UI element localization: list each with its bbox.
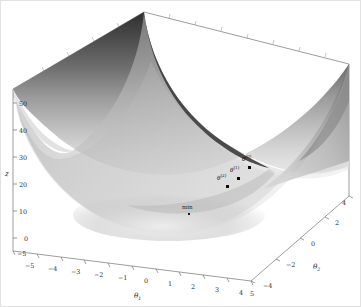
z-tick-40: 40 bbox=[19, 127, 27, 135]
y-tick-neg2: −2 bbox=[286, 261, 295, 269]
theta-2-superscript: (2) bbox=[220, 173, 226, 178]
x-tick-neg3: −3 bbox=[71, 268, 80, 276]
plot-area: 50 40 30 20 10 0 −5 z −5 −4 −3 −2 −1 0 1… bbox=[1, 1, 360, 306]
x-axis-title-sub: 1 bbox=[138, 296, 141, 301]
y-tick-neg4: −4 bbox=[263, 282, 272, 290]
x-tick-5: 5 bbox=[250, 290, 254, 298]
x-axis-title: θ1 bbox=[134, 291, 141, 301]
figure-container: 50 40 30 20 10 0 −5 z −5 −4 −3 −2 −1 0 1… bbox=[0, 0, 361, 307]
z-tick-20: 20 bbox=[19, 181, 27, 189]
surface-plot-svg bbox=[1, 1, 360, 306]
z-tick-0: 0 bbox=[24, 235, 28, 243]
theta-2-marker bbox=[226, 185, 229, 188]
x-tick-3: 3 bbox=[215, 286, 219, 294]
z-axis-title: z bbox=[5, 169, 9, 178]
theta-1-label: θ(1) bbox=[230, 165, 239, 173]
paraboloid-surface bbox=[13, 12, 349, 241]
y-axis-title: θ2 bbox=[313, 262, 320, 272]
y-axis-title-sub: 2 bbox=[317, 267, 320, 272]
x-tick-2: 2 bbox=[191, 283, 195, 291]
theta-1-marker bbox=[237, 177, 240, 180]
x-tick-neg2: −2 bbox=[94, 271, 103, 279]
x-tick-4: 4 bbox=[239, 289, 243, 297]
z-tick-10: 10 bbox=[19, 208, 27, 216]
x-tick-neg4: −4 bbox=[48, 265, 57, 273]
min-label: min bbox=[182, 204, 193, 210]
x-tick-neg1: −1 bbox=[118, 274, 127, 282]
z-axis-ticks bbox=[13, 103, 17, 238]
x-tick-0: 0 bbox=[144, 277, 148, 285]
z-tick-neg5: −5 bbox=[17, 250, 26, 258]
x-tick-neg5: −5 bbox=[25, 262, 34, 270]
y-tick-0: 0 bbox=[311, 240, 315, 248]
y-tick-2: 2 bbox=[335, 219, 339, 227]
y-tick-4: 4 bbox=[342, 199, 346, 207]
theta-1-superscript: (1) bbox=[233, 165, 239, 170]
min-marker bbox=[188, 213, 190, 215]
theta-0-marker bbox=[248, 166, 251, 169]
x-tick-1: 1 bbox=[168, 280, 172, 288]
z-tick-50: 50 bbox=[19, 100, 27, 108]
z-tick-30: 30 bbox=[19, 154, 27, 162]
theta-2-label: θ(2) bbox=[217, 173, 226, 181]
y-axis-ticks bbox=[251, 196, 353, 283]
theta-0-superscript: (0) bbox=[245, 154, 251, 159]
theta-0-label: θ(0) bbox=[242, 154, 251, 162]
